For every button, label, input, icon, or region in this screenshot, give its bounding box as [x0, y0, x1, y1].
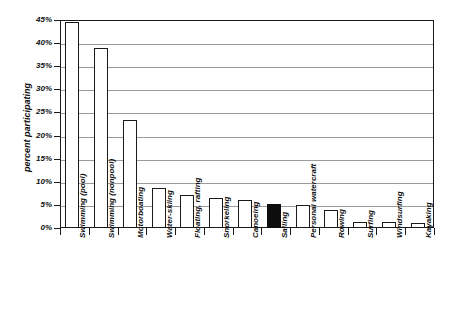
x-axis-tick	[290, 228, 291, 235]
bar-chart: percent participating 0%5%10%15%20%25%30…	[0, 0, 459, 326]
x-axis-tick	[175, 228, 176, 235]
x-axis-tick-label: Swimming (nonpool)	[107, 108, 119, 238]
x-axis-tick-label: Kayaking	[424, 108, 436, 238]
x-axis-tick-label: Canoeing	[251, 108, 263, 238]
x-axis-tick-label: Personal watercraft	[309, 108, 321, 238]
x-axis-tick	[89, 228, 90, 235]
x-axis-tick	[233, 228, 234, 235]
x-axis-tick	[60, 228, 61, 235]
x-axis-tick-label: Rowing	[337, 108, 349, 238]
x-axis-tick-label: Sailing	[280, 108, 292, 238]
x-axis-tick	[118, 228, 119, 235]
x-axis-tick	[405, 228, 406, 235]
x-axis-tick-label: Swimming (pool)	[78, 108, 90, 238]
x-axis-tick-label: Snorkeling	[222, 108, 234, 238]
x-axis-tick	[319, 228, 320, 235]
x-axis-tick-label: Floating, rafting	[193, 108, 205, 238]
x-axis-tick	[204, 228, 205, 235]
x-axis-tick	[376, 228, 377, 235]
x-axis-tick	[261, 228, 262, 235]
x-axis-labels: Swimming (pool)Swimming (nonpool)Motorbo…	[0, 0, 459, 326]
x-axis-tick-label: Motorboating	[136, 108, 148, 238]
x-axis-tick	[434, 228, 435, 235]
x-axis-tick-label: Windsurfing	[395, 108, 407, 238]
x-axis-tick-label: Water-skiing	[165, 108, 177, 238]
x-axis-tick-label: Surfing	[366, 108, 378, 238]
x-axis-tick	[146, 228, 147, 235]
x-axis-tick	[348, 228, 349, 235]
